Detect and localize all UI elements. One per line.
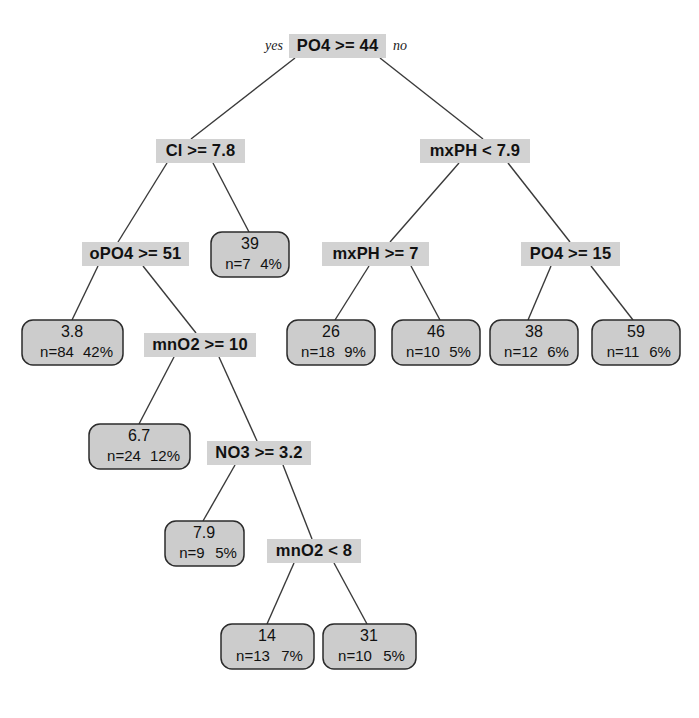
split-node-po4-15-label: PO4 >= 15 bbox=[530, 244, 612, 262]
root-yes-label: yes bbox=[263, 38, 283, 53]
split-node-mno2-8-label: mnO2 < 8 bbox=[276, 541, 352, 559]
leaf-node-39-n: n=7 bbox=[225, 255, 250, 272]
decision-tree-figure: yes no PO4 >= 44 Cl >= 7.8 mxPH < 7.9 oP… bbox=[0, 0, 699, 718]
split-node-root-label: PO4 >= 44 bbox=[297, 36, 379, 54]
edge-mxphge-to-leaf26 bbox=[335, 266, 369, 320]
leaf-node-59[interactable]: 59 n=11 6% bbox=[592, 320, 680, 365]
leaf-node-39[interactable]: 39 n=7 4% bbox=[211, 232, 289, 277]
leaf-node-46-pct: 5% bbox=[449, 343, 471, 360]
edge-mxphlt-to-po415 bbox=[508, 163, 570, 242]
leaf-node-39-value: 39 bbox=[241, 235, 259, 252]
split-node-opo4[interactable]: oPO4 >= 51 bbox=[82, 242, 189, 266]
leaf-node-46-value: 46 bbox=[427, 323, 445, 340]
leaf-node-26-value: 26 bbox=[322, 323, 340, 340]
edge-mno28-to-leaf14 bbox=[267, 563, 294, 624]
split-node-cl-label: Cl >= 7.8 bbox=[166, 141, 236, 159]
leaf-node-59-n: n=11 bbox=[607, 343, 640, 360]
edge-po415-to-leaf59 bbox=[591, 266, 633, 320]
leaf-node-14-value: 14 bbox=[258, 627, 276, 644]
leaf-node-3-8-value: 3.8 bbox=[61, 323, 83, 340]
leaf-node-6-7-n: n=24 bbox=[107, 447, 141, 464]
edge-no3-to-leaf79 bbox=[203, 465, 235, 521]
leaf-node-6-7-value: 6.7 bbox=[128, 427, 150, 444]
leaf-node-46[interactable]: 46 n=10 5% bbox=[392, 320, 480, 365]
leaf-node-46-n: n=10 bbox=[406, 343, 440, 360]
split-node-mxph-ge[interactable]: mxPH >= 7 bbox=[322, 242, 429, 266]
leaf-node-3-8-n: n=84 bbox=[40, 343, 74, 360]
edge-opo4-to-mno210 bbox=[143, 266, 196, 333]
split-node-mno2-8[interactable]: mnO2 < 8 bbox=[267, 539, 361, 563]
leaf-node-14[interactable]: 14 n=13 7% bbox=[221, 624, 314, 669]
leaf-node-6-7[interactable]: 6.7 n=24 12% bbox=[89, 424, 190, 469]
leaf-node-38-value: 38 bbox=[525, 323, 543, 340]
split-node-no3-label: NO3 >= 3.2 bbox=[215, 443, 302, 461]
leaf-node-59-value: 59 bbox=[627, 323, 645, 340]
edge-no3-to-mno28 bbox=[283, 465, 312, 539]
leaf-node-14-pct: 7% bbox=[281, 647, 303, 664]
edge-root-to-mxph-lt bbox=[380, 58, 483, 139]
leaf-node-39-pct: 4% bbox=[260, 255, 282, 272]
leaf-node-3-8[interactable]: 3.8 n=84 42% bbox=[22, 320, 123, 365]
leaf-node-7-9[interactable]: 7.9 n=9 5% bbox=[165, 521, 244, 566]
split-node-mxph-ge-label: mxPH >= 7 bbox=[332, 244, 418, 262]
split-node-no3[interactable]: NO3 >= 3.2 bbox=[207, 441, 311, 465]
leaf-node-26-pct: 9% bbox=[344, 343, 366, 360]
root-no-label: no bbox=[393, 38, 407, 53]
leaf-node-26[interactable]: 26 n=18 9% bbox=[287, 320, 375, 365]
leaf-node-26-n: n=18 bbox=[301, 343, 335, 360]
leaf-node-38-pct: 6% bbox=[547, 343, 569, 360]
leaf-node-31-pct: 5% bbox=[383, 647, 405, 664]
edge-root-to-cl bbox=[191, 58, 295, 139]
split-node-po4-15[interactable]: PO4 >= 15 bbox=[521, 242, 620, 266]
leaf-node-3-8-pct: 42% bbox=[83, 343, 113, 360]
edge-po415-to-leaf38b bbox=[528, 266, 551, 320]
split-node-mno2-10-label: mnO2 >= 10 bbox=[152, 335, 248, 353]
edge-mno210-to-no3 bbox=[219, 357, 257, 441]
leaf-node-31[interactable]: 31 n=10 5% bbox=[323, 624, 416, 669]
edge-mxphlt-to-mxphge bbox=[390, 163, 459, 242]
edge-mno28-to-leaf31 bbox=[334, 563, 367, 624]
split-node-root[interactable]: PO4 >= 44 bbox=[289, 34, 386, 58]
leaf-node-6-7-pct: 12% bbox=[150, 447, 180, 464]
split-node-mxph-lt[interactable]: mxPH < 7.9 bbox=[420, 139, 530, 163]
leaf-node-59-pct: 6% bbox=[649, 343, 671, 360]
leaf-node-38-n: n=12 bbox=[504, 343, 538, 360]
edge-opo4-to-leaf38 bbox=[72, 266, 98, 320]
edge-cl-to-leaf39 bbox=[213, 163, 249, 232]
edge-mxphge-to-leaf46 bbox=[411, 266, 440, 320]
leaf-node-7-9-value: 7.9 bbox=[193, 524, 215, 541]
split-node-mxph-lt-label: mxPH < 7.9 bbox=[430, 141, 521, 159]
leaf-node-38[interactable]: 38 n=12 6% bbox=[490, 320, 578, 365]
edge-cl-to-opo4 bbox=[118, 163, 167, 242]
leaf-node-7-9-n: n=9 bbox=[179, 544, 204, 561]
split-node-opo4-label: oPO4 >= 51 bbox=[90, 244, 182, 262]
split-node-cl[interactable]: Cl >= 7.8 bbox=[156, 139, 245, 163]
leaf-node-14-n: n=13 bbox=[236, 647, 270, 664]
leaf-node-7-9-pct: 5% bbox=[215, 544, 237, 561]
leaf-node-31-value: 31 bbox=[360, 627, 378, 644]
leaf-node-31-n: n=10 bbox=[338, 647, 372, 664]
split-node-mno2-10[interactable]: mnO2 >= 10 bbox=[144, 333, 256, 357]
edge-mno210-to-leaf67 bbox=[139, 357, 174, 424]
